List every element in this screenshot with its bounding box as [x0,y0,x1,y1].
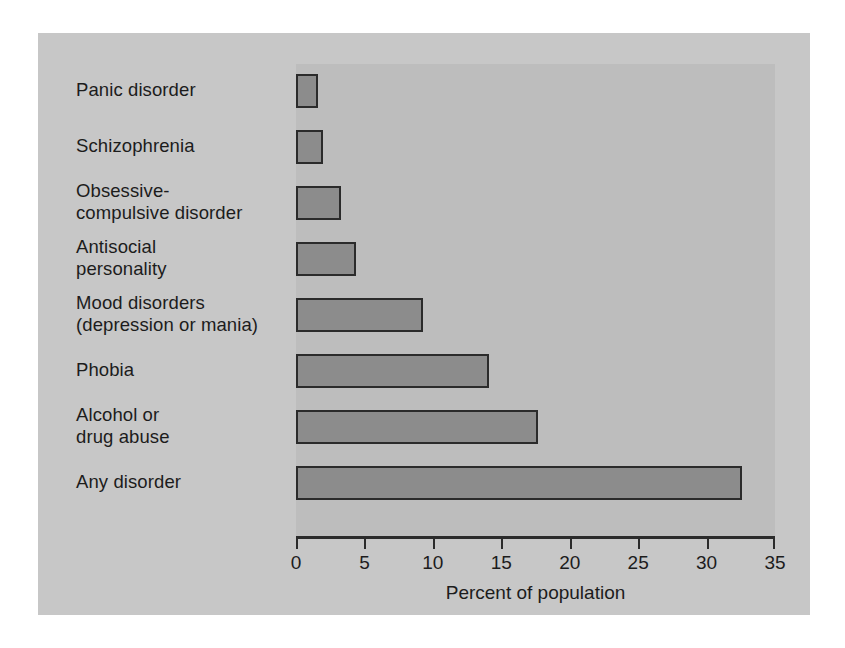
x-axis-line [296,536,775,539]
bar [296,466,742,500]
x-axis-tick [638,536,640,549]
bar [296,298,423,332]
x-axis-tick-label: 30 [696,552,717,574]
category-label: Antisocial personality [76,236,167,280]
category-label: Mood disorders (depression or mania) [76,292,258,336]
category-label: Any disorder [76,471,181,493]
x-axis-tick [433,536,435,549]
x-axis-tick-label: 10 [422,552,443,574]
bar [296,354,489,388]
bar [296,74,318,108]
x-axis-tick [296,536,298,549]
x-axis-tick-label: 0 [291,552,302,574]
x-axis-tick-label: 5 [359,552,370,574]
x-axis-tick-label: 35 [764,552,785,574]
x-axis-tick [364,536,366,549]
x-axis-tick [501,536,503,549]
category-label: Panic disorder [76,79,196,101]
figure-panel: Panic disorderSchizophreniaObsessive- co… [38,33,810,615]
x-axis-tick [707,536,709,549]
x-axis-tick-label: 25 [628,552,649,574]
x-axis-tick [773,536,775,549]
category-label: Schizophrenia [76,135,195,157]
bar [296,186,341,220]
x-axis-title: Percent of population [296,582,775,604]
bar [296,130,323,164]
bar [296,242,356,276]
bar [296,410,538,444]
x-axis-tick-label: 20 [559,552,580,574]
category-label: Alcohol or drug abuse [76,404,170,448]
category-label: Phobia [76,359,134,381]
x-axis-tick [570,536,572,549]
category-label: Obsessive- compulsive disorder [76,180,242,224]
x-axis-tick-label: 15 [491,552,512,574]
bar-chart: Panic disorderSchizophreniaObsessive- co… [38,33,810,615]
